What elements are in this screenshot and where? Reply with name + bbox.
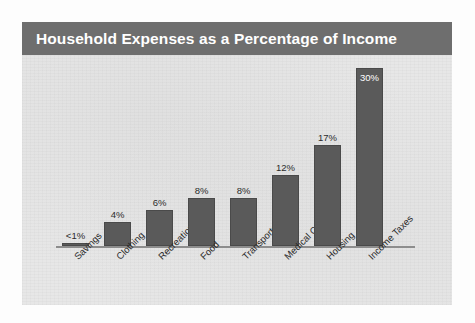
chart-plot-frame: <1%Savings4%Clothing6%Recreation8%Food8%… xyxy=(22,55,452,305)
bar-medical-care xyxy=(272,175,299,246)
bar-housing xyxy=(314,145,341,246)
bar-value-label: 8% xyxy=(219,185,268,196)
scanned-page: Household Expenses as a Percentage of In… xyxy=(0,0,475,323)
bar-value-label: 17% xyxy=(303,132,352,143)
chart-plot-area: <1%Savings4%Clothing6%Recreation8%Food8%… xyxy=(22,55,452,305)
bar-transportation xyxy=(230,198,257,246)
bar-value-label: 4% xyxy=(93,209,142,220)
bar-value-label: 30% xyxy=(345,72,394,83)
chart-title: Household Expenses as a Percentage of In… xyxy=(36,30,397,48)
bar-food xyxy=(188,198,215,246)
chart-title-bar: Household Expenses as a Percentage of In… xyxy=(22,22,452,55)
bar-income-taxes xyxy=(356,68,383,247)
bar-value-label: 12% xyxy=(261,162,310,173)
chart-figure: Household Expenses as a Percentage of In… xyxy=(22,22,452,305)
bar-value-label: 6% xyxy=(135,197,184,208)
x-axis-line xyxy=(56,246,415,248)
